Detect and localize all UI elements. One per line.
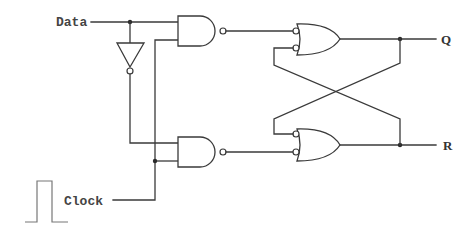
r-label: R xyxy=(443,138,453,153)
feedback-wire-q-to-bottom xyxy=(274,39,400,134)
clock-junction xyxy=(153,159,157,163)
nand-bottom-gate xyxy=(178,137,215,167)
or-bottom-gate xyxy=(297,129,340,161)
circuit-diagram: Data Clock Q R xyxy=(0,0,474,236)
or-top-bubble-1 xyxy=(293,28,299,34)
inverter-output-wire xyxy=(130,74,178,143)
nand-bottom-bubble xyxy=(220,149,226,155)
inverter-bubble xyxy=(127,68,133,74)
nand-top-bubble xyxy=(220,28,226,34)
data-label: Data xyxy=(56,15,87,30)
or-top-gate xyxy=(297,24,340,55)
clock-label: Clock xyxy=(64,194,103,209)
inverter-gate xyxy=(117,43,144,67)
clock-pulse-icon xyxy=(25,181,68,222)
q-label: Q xyxy=(441,32,451,47)
or-bottom-bubble-1 xyxy=(293,131,299,137)
or-top-bubble-2 xyxy=(293,45,299,51)
clock-wire xyxy=(113,40,178,200)
or-bottom-bubble-2 xyxy=(293,149,299,155)
nand-top-gate xyxy=(178,16,215,46)
feedback-wire-r-to-top xyxy=(274,48,400,145)
